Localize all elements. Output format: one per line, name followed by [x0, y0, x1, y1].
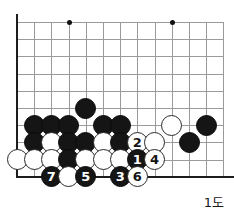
grid-line-vertical — [189, 22, 190, 177]
stone-black — [179, 132, 200, 153]
grid-line-vertical — [172, 22, 173, 177]
move-number: 7 — [47, 170, 56, 183]
go-diagram-figure: 2147536 1도 — [0, 0, 234, 215]
move-number: 1 — [133, 153, 142, 166]
grid-line-vertical — [223, 22, 224, 177]
star-point — [67, 20, 72, 25]
move-number: 3 — [116, 170, 125, 183]
star-point — [170, 20, 175, 25]
diagram-caption: 1도 — [204, 192, 225, 211]
stone-white-move-6: 6 — [127, 166, 148, 187]
move-number: 6 — [133, 170, 142, 183]
move-number: 4 — [150, 153, 159, 166]
move-number: 2 — [133, 135, 142, 148]
stone-black — [75, 98, 96, 119]
move-number: 5 — [81, 170, 90, 183]
stone-black-move-5: 5 — [75, 166, 96, 187]
go-board: 2147536 — [0, 0, 234, 215]
stone-white-move-4: 4 — [144, 149, 165, 170]
stone-black — [196, 115, 217, 136]
grid-line-vertical — [206, 22, 207, 177]
stone-white — [161, 115, 182, 136]
